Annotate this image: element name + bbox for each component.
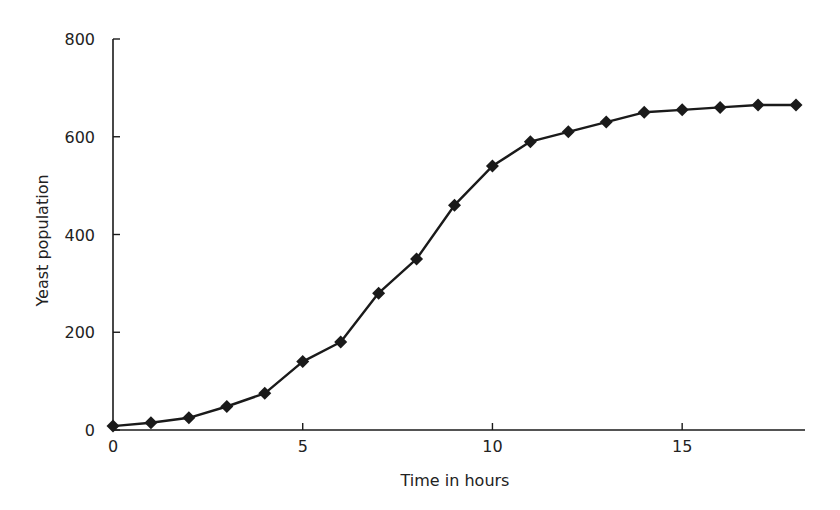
y-axis-title: Yeast population <box>33 174 52 307</box>
diamond-marker-icon <box>600 116 613 129</box>
diamond-marker-icon <box>220 400 233 413</box>
y-axis: 0200400600800 <box>64 30 120 440</box>
y-tick-label: 400 <box>64 226 95 245</box>
diamond-marker-icon <box>562 125 575 138</box>
diamond-marker-icon <box>752 98 765 111</box>
line-chart: 0200400600800 051015 Yeast population Ti… <box>0 0 840 510</box>
diamond-marker-icon <box>638 106 651 119</box>
series-line <box>113 105 796 426</box>
x-tick-label: 5 <box>298 437 308 456</box>
x-tick-label: 0 <box>108 437 118 456</box>
y-tick-label: 600 <box>64 128 95 147</box>
diamond-marker-icon <box>144 416 157 429</box>
y-tick-label: 200 <box>64 323 95 342</box>
diamond-marker-icon <box>524 135 537 148</box>
x-tick-label: 15 <box>672 437 692 456</box>
y-tick-label: 800 <box>64 30 95 49</box>
x-axis-title: Time in hours <box>400 471 510 490</box>
data-series <box>107 98 803 432</box>
x-axis: 051015 <box>108 423 805 456</box>
diamond-marker-icon <box>714 101 727 114</box>
x-tick-label: 10 <box>482 437 502 456</box>
diamond-marker-icon <box>676 103 689 116</box>
diamond-marker-icon <box>182 411 195 424</box>
diamond-marker-icon <box>790 98 803 111</box>
y-tick-label: 0 <box>85 421 95 440</box>
